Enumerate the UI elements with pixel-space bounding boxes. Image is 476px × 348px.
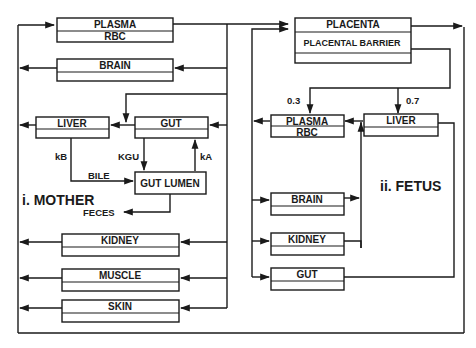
mother-plasma-rbc-box: PLASMA RBC <box>57 18 173 42</box>
fetus-gut-box: GUT <box>271 268 344 290</box>
mother-rbc-label: RBC <box>104 31 126 42</box>
edge-label-ka: kA <box>200 151 212 162</box>
fetus-section-title: ii. FETUS <box>380 178 441 194</box>
mother-section-title: i. MOTHER <box>22 192 94 208</box>
mother-kidney-box: KIDNEY <box>62 234 179 256</box>
mother-kidney-label: KIDNEY <box>101 235 139 246</box>
mother-muscle-box: MUSCLE <box>62 269 179 291</box>
fetus-plasma-label: PLASMA <box>286 116 328 127</box>
mother-gut-lumen-label: GUT LUMEN <box>140 178 199 189</box>
mother-liver-box: LIVER <box>36 117 109 138</box>
placental-barrier-label: PLACENTAL BARRIER <box>303 38 401 48</box>
split-label-liver: 0.7 <box>406 95 419 106</box>
fetus-liver-label: LIVER <box>386 115 416 126</box>
fetus-kidney-box: KIDNEY <box>271 233 344 255</box>
fetus-brain-label: BRAIN <box>291 194 323 205</box>
placenta-box: PLACENTA PLACENTAL BARRIER <box>295 18 411 63</box>
edge-label-bile: BILE <box>88 170 110 181</box>
mother-plasma-label: PLASMA <box>94 19 136 30</box>
mother-skin-label: SKIN <box>108 301 132 312</box>
fetus-kidney-label: KIDNEY <box>288 234 326 245</box>
edge-label-feces: FECES <box>83 207 115 218</box>
edge-label-kgu: KGU <box>118 151 139 162</box>
mother-skin-box: SKIN <box>62 300 179 322</box>
fetus-gut-label: GUT <box>296 269 317 280</box>
fetus-plasma-rbc-box: PLASMA RBC <box>271 115 344 138</box>
mother-muscle-label: MUSCLE <box>99 270 142 281</box>
mother-gut-box: GUT <box>135 117 208 138</box>
edge-label-kb: kB <box>55 151 67 162</box>
placenta-label: PLACENTA <box>326 19 380 30</box>
split-label-plasma: 0.3 <box>287 95 300 106</box>
mother-liver-label: LIVER <box>57 118 87 129</box>
mother-brain-label: BRAIN <box>99 60 131 71</box>
mother-gut-lumen-box: GUT LUMEN <box>135 172 206 194</box>
mother-gut-label: GUT <box>160 118 181 129</box>
fetus-rbc-label: RBC <box>296 127 318 138</box>
fetus-brain-box: BRAIN <box>271 193 344 215</box>
pbpk-model-diagram: PLASMA RBC BRAIN LIVER GUT GUT LUMEN kB … <box>0 0 476 348</box>
mother-brain-box: BRAIN <box>57 59 173 81</box>
fetus-liver-box: LIVER <box>364 114 438 136</box>
